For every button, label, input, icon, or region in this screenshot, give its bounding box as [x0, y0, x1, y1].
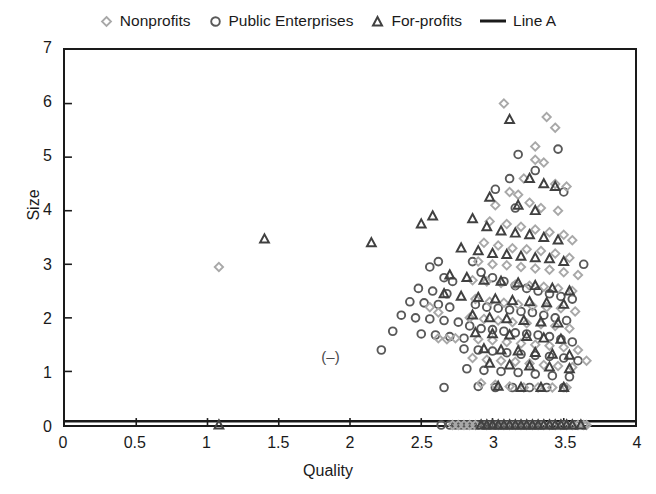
legend-item-label: Nonprofits — [120, 13, 191, 29]
data-point — [531, 142, 539, 150]
data-point — [514, 190, 522, 198]
data-point — [494, 241, 502, 249]
x-axis-ticks: 00.511.522.533.54 — [0, 430, 656, 458]
data-point — [531, 167, 539, 175]
legend-item-nonprofits[interactable]: Nonprofits — [100, 13, 191, 29]
line-marker — [480, 16, 506, 26]
data-point — [560, 231, 568, 239]
data-point — [508, 296, 517, 304]
data-point — [511, 228, 520, 236]
data-point — [468, 214, 477, 222]
data-point — [560, 268, 568, 276]
data-point — [260, 234, 269, 242]
data-point — [566, 373, 574, 381]
data-point — [480, 239, 488, 247]
data-point — [539, 179, 548, 187]
data-point — [562, 182, 570, 190]
legend-item-label: Public Enterprises — [229, 13, 354, 29]
data-point — [514, 151, 522, 159]
data-point — [482, 222, 491, 230]
data-point — [517, 252, 526, 260]
data-point — [560, 343, 568, 351]
series-for-profits — [215, 115, 586, 429]
data-point — [415, 285, 423, 293]
data-point — [502, 314, 511, 322]
data-point — [551, 249, 559, 257]
data-point — [531, 225, 539, 233]
data-point — [491, 294, 500, 302]
x-tick-label: 4 — [617, 434, 656, 452]
data-point — [497, 357, 505, 365]
data-point — [440, 317, 448, 325]
legend-item-line-a[interactable]: Line A — [480, 13, 556, 29]
data-point — [531, 370, 539, 378]
data-point — [457, 292, 466, 300]
data-point — [545, 265, 553, 273]
data-point — [417, 330, 425, 338]
data-point — [506, 175, 514, 183]
data-point — [554, 362, 562, 370]
data-point — [497, 368, 505, 376]
data-point — [503, 220, 511, 228]
data-point — [485, 193, 494, 201]
chart-legend: NonprofitsPublic EnterprisesFor-profitsL… — [0, 8, 656, 34]
data-point — [488, 260, 496, 268]
data-point — [537, 247, 545, 255]
data-point — [454, 318, 462, 326]
x-tick-label: 1 — [187, 434, 227, 452]
data-point — [517, 223, 525, 231]
data-point — [497, 345, 506, 353]
circle-marker — [209, 15, 222, 28]
data-point — [215, 263, 223, 271]
y-tick-label: 6 — [26, 93, 52, 111]
x-tick-label: 1.5 — [258, 434, 298, 452]
data-point — [463, 365, 471, 373]
y-tick-label: 2 — [26, 310, 52, 328]
series-nonprofits — [215, 99, 591, 429]
data-point — [545, 228, 553, 236]
data-point — [505, 115, 514, 123]
x-axis-title: Quality — [0, 462, 656, 480]
x-tick-label: 3.5 — [545, 434, 585, 452]
data-point — [460, 334, 468, 342]
data-point — [560, 188, 568, 196]
data-point — [460, 345, 468, 353]
data-point — [554, 207, 562, 215]
data-point — [483, 303, 491, 311]
data-point — [531, 253, 540, 261]
data-point — [505, 188, 513, 196]
data-point — [480, 344, 489, 352]
legend-item-public-enterprises[interactable]: Public Enterprises — [209, 13, 354, 29]
data-point — [462, 273, 471, 281]
data-point — [574, 271, 582, 279]
scatter-plot-figure: NonprofitsPublic EnterprisesFor-profitsL… — [0, 0, 656, 494]
data-point — [548, 372, 556, 380]
data-point — [565, 351, 574, 359]
data-point — [397, 311, 405, 319]
data-point — [508, 244, 516, 252]
data-point — [568, 338, 576, 346]
data-point — [426, 315, 434, 323]
legend-item-label: For-profits — [391, 13, 462, 29]
data-point — [457, 243, 466, 251]
data-point — [488, 249, 497, 257]
data-point — [554, 145, 562, 153]
data-point — [474, 246, 483, 254]
data-point — [389, 327, 397, 335]
data-point — [489, 347, 497, 355]
y-axis-ticks: 01234567 — [22, 0, 52, 494]
y-tick-label: 3 — [26, 256, 52, 274]
data-point — [540, 158, 548, 166]
data-point — [551, 124, 559, 132]
y-tick-label: 4 — [26, 201, 52, 219]
legend-item-for-profits[interactable]: For-profits — [371, 13, 462, 29]
data-point — [502, 250, 511, 258]
data-point — [580, 260, 588, 268]
y-tick-label: 1 — [26, 364, 52, 382]
plot-area: (–) — [63, 48, 637, 427]
data-point — [485, 359, 494, 367]
data-point — [531, 156, 539, 164]
data-point — [565, 324, 573, 332]
data-point — [445, 270, 454, 278]
data-point — [574, 357, 582, 365]
